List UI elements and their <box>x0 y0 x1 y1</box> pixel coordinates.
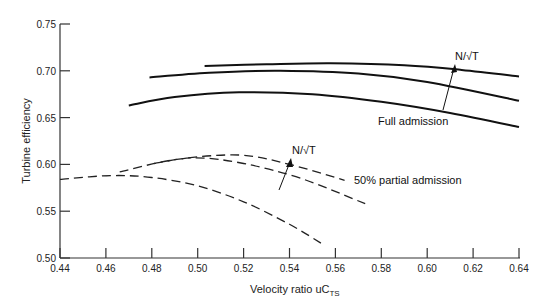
y-tick-label: 0.65 <box>37 113 57 124</box>
x-tick-label: 0.56 <box>326 263 346 274</box>
partial-admission-curve-2 <box>154 158 365 204</box>
y-tick-label: 0.60 <box>37 159 57 170</box>
partial-admission-curve-1 <box>60 176 324 245</box>
x-tick-label: 0.50 <box>188 263 208 274</box>
y-tick-label: 0.70 <box>37 66 57 77</box>
x-axis-title: Velocity ratio uCTS <box>250 283 340 298</box>
x-ticks: 0.440.460.480.500.520.540.560.580.600.62… <box>50 248 529 274</box>
x-tick-label: 0.60 <box>417 263 437 274</box>
arrowhead-partial-admission <box>286 158 293 167</box>
y-tick-label: 0.75 <box>37 19 57 30</box>
x-tick-label: 0.54 <box>280 263 300 274</box>
x-axis-title-subscript: TS <box>329 289 339 298</box>
y-axis-title: Turbine efficiency <box>20 98 32 184</box>
x-tick-label: 0.58 <box>372 263 392 274</box>
annotation-n-sqrt-t-full: N/√T <box>455 50 479 62</box>
full-admission-curve-1 <box>129 92 519 127</box>
x-tick-label: 0.46 <box>96 263 116 274</box>
annotation-full-admission: Full admission <box>378 115 448 127</box>
y-ticks: 0.500.550.600.650.700.75 <box>37 19 70 264</box>
annotation-partial-admission: 50% partial admission <box>354 174 462 186</box>
annotation-n-sqrt-t-partial: N/√T <box>292 144 316 156</box>
x-axis-title-main: Velocity ratio uC <box>250 283 330 295</box>
series-group <box>60 63 519 245</box>
x-tick-label: 0.64 <box>509 263 529 274</box>
axes <box>60 24 520 258</box>
partial-admission-curve-3 <box>120 155 345 180</box>
x-tick-label: 0.52 <box>234 263 254 274</box>
x-tick-label: 0.62 <box>463 263 483 274</box>
turbine-efficiency-chart: 0.440.460.480.500.520.540.560.580.600.62… <box>0 0 554 308</box>
y-tick-label: 0.50 <box>37 253 57 264</box>
arrow-full-admission <box>443 68 454 110</box>
x-tick-label: 0.44 <box>50 263 70 274</box>
y-tick-label: 0.55 <box>37 206 57 217</box>
x-tick-label: 0.48 <box>142 263 162 274</box>
